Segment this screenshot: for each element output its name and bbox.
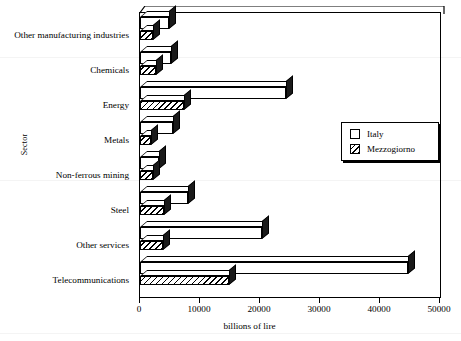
bar-end-cap	[169, 5, 176, 29]
bar-top-face	[140, 270, 236, 276]
y-tick-label-0: Other manufacturing industries	[14, 30, 129, 40]
bar-end-cap	[163, 229, 170, 250]
x-tick-0	[139, 298, 140, 303]
legend-label-italy: Italy	[367, 129, 384, 139]
bar-end-cap	[173, 110, 180, 134]
x-tick-3	[319, 298, 320, 303]
bar-mezzogiorno-2	[140, 101, 184, 110]
x-axis-title-text: billions of lire	[223, 321, 275, 331]
bar-mezzogiorno-4	[140, 171, 153, 180]
bar-mezzogiorno-1	[140, 66, 156, 75]
x-tick-label-4: 40000	[368, 304, 391, 314]
x-axis-tick-labels: 01000020000300004000050000	[0, 304, 461, 318]
bar-end-cap	[153, 19, 160, 40]
bar-end-cap	[153, 159, 160, 180]
x-tick-5	[439, 298, 440, 303]
hatched-square-icon	[350, 144, 360, 154]
x-axis-title: billions of lire	[0, 321, 461, 331]
legend-entry-italy[interactable]: Italy	[350, 127, 384, 141]
y-tick-label-4: Non-ferrous mining	[56, 170, 129, 180]
bar-group	[140, 17, 440, 52]
bar-end-cap	[188, 180, 195, 204]
bar-end-cap	[286, 75, 293, 99]
y-axis-tick-labels: Other manufacturing industries Chemicals…	[0, 18, 133, 296]
legend-entry-mezzogiorno[interactable]: Mezzogiorno	[350, 142, 415, 156]
x-tick-2	[259, 298, 260, 303]
bar-end-cap	[408, 250, 415, 274]
x-tick-1	[199, 298, 200, 303]
legend: Italy Mezzogiorno	[341, 122, 439, 161]
y-tick-label-3: Metals	[104, 135, 129, 145]
bar-end-cap	[171, 40, 178, 64]
bar-top-face	[140, 221, 270, 227]
bar-mezzogiorno-3	[140, 136, 151, 145]
x-tick-4	[379, 298, 380, 303]
x-tick-label-2: 20000	[248, 304, 271, 314]
bar-top-face	[140, 81, 293, 87]
bar-mezzogiorno-6	[140, 241, 163, 250]
y-tick-label-6: Other services	[76, 240, 129, 250]
bar-chart: Sector Other manufacturing industries Ch…	[0, 0, 461, 341]
bar-top-face	[140, 186, 195, 192]
x-tick-label-1: 10000	[188, 304, 211, 314]
legend-label-mezzogiorno: Mezzogiorno	[367, 144, 415, 154]
y-tick-label-1: Chemicals	[90, 65, 129, 75]
bar-group	[140, 87, 440, 122]
bar-mezzogiorno-5	[140, 206, 164, 215]
y-tick-label-7: Telecommunications	[53, 275, 129, 285]
bar-top-face	[140, 256, 415, 262]
x-tick-label-0: 0	[137, 304, 142, 314]
y-tick-label-5: Steel	[111, 205, 129, 215]
white-square-icon	[350, 129, 360, 139]
x-tick-label-5: 50000	[428, 304, 451, 314]
y-tick-label-2: Energy	[103, 100, 129, 110]
bar-mezzogiorno-0	[140, 31, 153, 40]
bar-end-cap	[159, 145, 166, 169]
x-tick-label-3: 30000	[308, 304, 331, 314]
bar-end-cap	[262, 215, 269, 239]
bar-group	[140, 262, 440, 297]
bar-mezzogiorno-7	[140, 276, 229, 285]
